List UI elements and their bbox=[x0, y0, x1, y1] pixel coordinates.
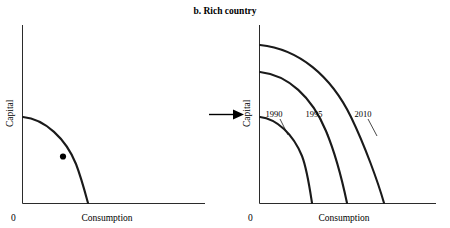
shifted-ppf-panel: 1990 1995 2010 Capital Consumption 0 bbox=[242, 25, 436, 223]
curve-label-1995: 1995 bbox=[306, 109, 323, 119]
leader-line-2010 bbox=[368, 119, 377, 136]
figure-container: b. Rich country Capital Consumption 0 bbox=[0, 0, 450, 228]
curve-1990 bbox=[260, 117, 312, 203]
curve-label-2010: 2010 bbox=[355, 109, 372, 119]
transition-arrow bbox=[209, 110, 244, 120]
left-ppf-curve bbox=[23, 117, 88, 203]
right-y-axis-label: Capital bbox=[242, 99, 252, 127]
curve-1995 bbox=[260, 72, 347, 203]
initial-ppf-panel: Capital Consumption 0 bbox=[5, 25, 205, 223]
left-x-axis-label: Consumption bbox=[81, 213, 132, 223]
left-y-axis-label: Capital bbox=[5, 99, 15, 127]
production-point-marker bbox=[60, 153, 66, 159]
leader-line-1995 bbox=[320, 119, 328, 135]
left-origin-label: 0 bbox=[11, 213, 16, 223]
curve-label-1990: 1990 bbox=[266, 109, 283, 119]
figure-title: b. Rich country bbox=[193, 6, 256, 16]
right-x-axis-label: Consumption bbox=[318, 213, 369, 223]
right-origin-label: 0 bbox=[248, 213, 253, 223]
economics-ppf-figure: b. Rich country Capital Consumption 0 bbox=[0, 0, 450, 228]
